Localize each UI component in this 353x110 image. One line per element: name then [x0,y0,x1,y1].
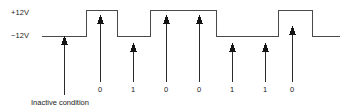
bit-arrow-2 [163,15,169,83]
bit-arrow-0 [97,15,103,83]
bit-label-4: 1 [225,86,239,94]
bit-arrow-1 [130,43,136,83]
bit-label-2: 0 [159,86,173,94]
axis-label-high-voltage: +12V [11,9,29,17]
waveform-figure: +12V −12V 0 1 0 0 1 1 0 Inactive conditi… [0,0,353,110]
annotation-arrows [61,15,295,96]
bit-label-6: 0 [285,86,299,94]
waveform-diagram [0,0,353,110]
inactive-condition-label: Inactive condition [31,99,89,107]
bit-label-5: 1 [258,86,272,94]
bit-arrow-3 [196,15,202,83]
bit-label-1: 1 [126,86,140,94]
bit-arrow-6 [289,26,295,83]
axis-label-low-voltage: −12V [11,32,29,40]
bit-arrow-4 [229,43,235,83]
bit-label-0: 0 [93,86,107,94]
inactive-condition-arrow [61,36,67,96]
bit-label-3: 0 [192,86,206,94]
waveform-trace [42,11,340,37]
bit-arrow-5 [262,43,268,83]
